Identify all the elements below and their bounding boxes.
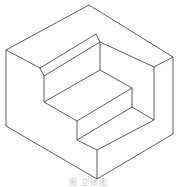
bottom-right-edge	[97, 134, 173, 179]
step1-left	[44, 70, 100, 102]
step2-right-edge	[97, 120, 154, 150]
step1-riser-top	[44, 102, 77, 121]
step2-left	[77, 140, 97, 150]
top-ledge	[40, 34, 154, 68]
isometric-stepped-block	[0, 0, 177, 187]
right-top-face	[154, 57, 173, 120]
step2-front	[77, 107, 132, 140]
left-top-face	[6, 50, 44, 76]
step2-back	[132, 107, 154, 120]
step1-front	[77, 88, 132, 121]
outer-top-edge	[6, 5, 173, 57]
figure-caption: 图 立体图	[0, 176, 177, 187]
ledge-lower-edge	[44, 42, 100, 76]
bottom-left-edge	[6, 126, 97, 179]
step1-back	[100, 70, 132, 88]
